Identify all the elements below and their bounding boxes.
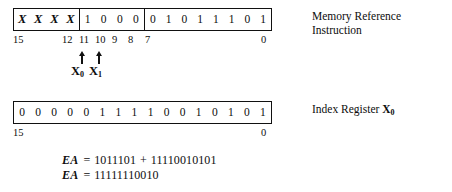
instruction-caption: Memory Reference Instruction — [312, 9, 401, 37]
up-arrow-icon — [77, 51, 86, 64]
index-register-field: 0000011110010101 — [14, 102, 271, 123]
pointer-label-base: X — [71, 64, 80, 78]
instruction-word-box: XXXX 1000 01011101 — [13, 8, 272, 31]
bit-position-label: 7 — [145, 33, 150, 47]
instruction-bit: X — [66, 13, 74, 26]
instruction-bit: 0 — [133, 14, 139, 26]
instruction-address-field: 01011101 — [144, 9, 271, 30]
bit-position-label: 10 — [95, 33, 106, 47]
instruction-bit: 1 — [260, 14, 266, 26]
ea-operand: 11110010101 — [151, 153, 217, 167]
bit-position-label: 12 — [62, 33, 73, 47]
instruction-caption-line2: Instruction — [312, 23, 401, 37]
instruction-caption-line1: Memory Reference — [312, 9, 401, 23]
instruction-x-field: XXXX — [14, 9, 79, 30]
index-bit: 1 — [228, 107, 234, 119]
instruction-bit: X — [18, 13, 26, 26]
index-caption-register: X — [382, 103, 390, 115]
bit-position-label: 0 — [261, 126, 266, 140]
up-arrow-icon — [94, 51, 103, 64]
instruction-bit: 0 — [117, 14, 123, 26]
instruction-bit: X — [50, 13, 58, 26]
instruction-bit-ruler: 151211109870 — [13, 33, 275, 47]
instruction-bit: 0 — [150, 14, 156, 26]
index-bit: 0 — [83, 107, 89, 119]
index-bit: 0 — [244, 107, 250, 119]
ea-equation-line: EA=1011101+11110010101 — [62, 153, 217, 168]
ea-operand: 1011101 — [94, 153, 136, 167]
instruction-bit: 1 — [166, 14, 172, 26]
index-bit: 1 — [99, 107, 105, 119]
ea-equations: EA=1011101+11110010101EA=11111110010 — [62, 153, 217, 183]
index-bit: 1 — [196, 107, 202, 119]
bit-position-label: 0 — [261, 33, 266, 47]
bit-position-label: 15 — [13, 126, 24, 140]
index-caption-text: Index Register — [312, 103, 382, 115]
instruction-bit: 0 — [245, 14, 251, 26]
bit-position-label: 9 — [112, 33, 117, 47]
instruction-bit: 1 — [85, 14, 91, 26]
instruction-bit: 0 — [101, 14, 107, 26]
index-register-caption: Index Register X0 — [312, 102, 395, 118]
ea-equation-line: EA=11111110010 — [62, 168, 217, 183]
bit-position-label: 15 — [13, 33, 24, 47]
bit-position-label: 11 — [79, 33, 89, 47]
index-bit: 1 — [260, 107, 266, 119]
ea-equals-sign: = — [78, 153, 94, 167]
index-bit: 0 — [19, 107, 25, 119]
pointer-label-sub: 1 — [98, 70, 102, 79]
pointer-label-base: X — [89, 64, 98, 78]
index-bit: 0 — [212, 107, 218, 119]
index-bit: 0 — [164, 107, 170, 119]
index-bit: 0 — [180, 107, 186, 119]
ea-plus-sign: + — [136, 153, 151, 167]
figure-canvas: XXXX 1000 01011101 151211109870 X0X1 Mem… — [0, 0, 452, 192]
index-bit: 1 — [132, 107, 138, 119]
index-bit: 0 — [35, 107, 41, 119]
instruction-bit: 0 — [182, 14, 188, 26]
index-bit: 0 — [67, 107, 73, 119]
index-bit: 1 — [116, 107, 122, 119]
ea-label: EA — [62, 153, 78, 167]
index-bit: 0 — [51, 107, 57, 119]
ea-equals-sign: = — [78, 168, 94, 182]
instruction-bit: 1 — [197, 14, 203, 26]
instruction-bit: X — [34, 13, 42, 26]
index-caption-register-sub: 0 — [391, 108, 395, 117]
x0-pointer-label: X0 — [71, 64, 84, 79]
pointer-label-sub: 0 — [80, 70, 84, 79]
instruction-bit: 1 — [213, 14, 219, 26]
pointer-arrow-row — [13, 51, 275, 65]
index-register-box: 0000011110010101 — [13, 101, 272, 124]
ea-label: EA — [62, 168, 78, 182]
index-bit-ruler: 150 — [13, 126, 275, 140]
bit-position-label: 8 — [128, 33, 133, 47]
instruction-opcode-field: 1000 — [79, 9, 145, 30]
pointer-label-row: X0X1 — [13, 64, 275, 80]
instruction-bit: 1 — [229, 14, 235, 26]
ea-operand: 11111110010 — [94, 168, 158, 182]
index-bit: 1 — [148, 107, 154, 119]
x1-pointer-label: X1 — [89, 64, 102, 79]
